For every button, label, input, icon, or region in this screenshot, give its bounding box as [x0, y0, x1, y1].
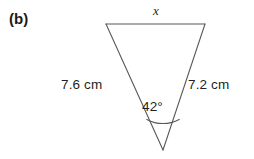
left-side-length-label: 7.6 cm	[61, 78, 102, 92]
unknown-side-label: x	[153, 4, 159, 17]
included-angle-label: 42°	[142, 100, 163, 114]
right-side-length-label: 7.2 cm	[188, 78, 229, 92]
angle-arc	[147, 119, 179, 123]
part-label: (b)	[9, 11, 28, 26]
geometry-figure: (b) x 7.6 cm 7.2 cm 42°	[0, 0, 254, 159]
triangle-left-edge	[106, 24, 163, 150]
